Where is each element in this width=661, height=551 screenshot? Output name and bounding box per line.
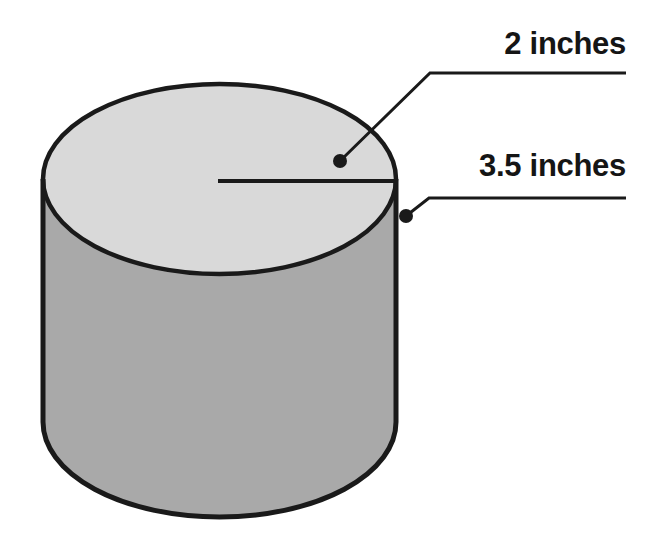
dimension-label-height: 3.5 inches <box>310 150 626 181</box>
dimension-label-diameter: 2 inches <box>330 28 626 59</box>
leader-dot-height <box>399 209 413 223</box>
cylinder-diagram-svg <box>0 0 661 551</box>
cylinder-figure: 2 inches 3.5 inches <box>0 0 661 551</box>
leader-line-height <box>406 198 626 216</box>
